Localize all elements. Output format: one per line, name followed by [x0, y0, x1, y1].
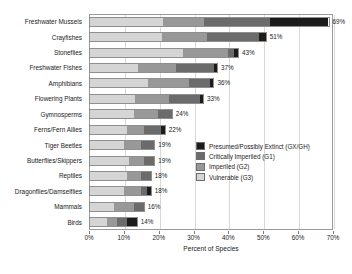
- bar-segment: [162, 33, 207, 41]
- x-tick-label: 0%: [84, 234, 93, 241]
- stacked-bar[interactable]: [89, 17, 330, 27]
- bar-segment: [210, 79, 213, 87]
- bar-segment: [200, 95, 203, 103]
- stacked-bar[interactable]: [89, 32, 267, 42]
- category-label: Birds: [0, 214, 85, 229]
- legend-swatch: [196, 173, 205, 181]
- x-tick-label: 30%: [187, 234, 200, 241]
- bar-row: 33%: [89, 91, 333, 106]
- legend-item[interactable]: Vulnerable (G3): [196, 173, 310, 181]
- bar-row: 69%: [89, 14, 333, 29]
- x-tick-label: 50%: [257, 234, 270, 241]
- bar-value-label: 19%: [158, 157, 171, 163]
- stacked-bar[interactable]: [89, 171, 152, 181]
- bar-segment: [141, 141, 155, 149]
- category-label: Flowering Plants: [0, 91, 85, 106]
- bar-segment: [90, 95, 135, 103]
- bar-segment: [90, 79, 148, 87]
- bar-segment: [90, 126, 127, 134]
- category-label: Tiger Beetles: [0, 137, 85, 152]
- bar-segment: [127, 218, 137, 226]
- bar-segment: [189, 79, 210, 87]
- stacked-bar[interactable]: [89, 78, 214, 88]
- bar-segment: [183, 49, 228, 57]
- bar-value-label: 16%: [148, 204, 161, 210]
- bar-segment: [90, 172, 127, 180]
- stacked-bar[interactable]: [89, 94, 204, 104]
- x-axis-ticks: 0%10%20%30%40%50%60%70%: [89, 231, 333, 243]
- bar-value-label: 43%: [242, 49, 255, 55]
- bar-segment: [127, 172, 140, 180]
- stacked-bar[interactable]: [89, 140, 155, 150]
- bar-value-label: 51%: [270, 34, 283, 40]
- bar-segment: [134, 110, 158, 118]
- stacked-bar[interactable]: [89, 217, 138, 227]
- bar-segment: [207, 33, 259, 41]
- bar-segment: [124, 187, 141, 195]
- bar-segment: [90, 64, 138, 72]
- bar-segment: [148, 79, 189, 87]
- bar-segment: [135, 95, 169, 103]
- bar-row: 51%: [89, 29, 333, 44]
- bar-value-label: 36%: [217, 80, 230, 86]
- category-label: Freshwater Fishes: [0, 60, 85, 75]
- bar-row: 24%: [89, 107, 333, 122]
- bar-segment: [90, 33, 162, 41]
- bar-segment: [158, 110, 172, 118]
- x-tick-label: 20%: [152, 234, 165, 241]
- category-label: Ferns/Fern Allies: [0, 122, 85, 137]
- gridline: [334, 15, 335, 229]
- bar-segment: [124, 141, 141, 149]
- stacked-bar[interactable]: [89, 48, 239, 58]
- category-label: Gymnosperms: [0, 107, 85, 122]
- bar-segment: [163, 18, 204, 26]
- legend-label: Imperiled (G2): [209, 163, 249, 170]
- bar-rows: 69%51%43%37%36%33%24%22%19%19%18%18%16%1…: [89, 14, 333, 230]
- legend-label: Critically Imperiled (G1): [209, 153, 275, 160]
- bar-segment: [176, 64, 214, 72]
- category-label: Freshwater Mussels: [0, 14, 85, 29]
- bar-segment: [90, 18, 163, 26]
- stacked-bar[interactable]: [89, 186, 152, 196]
- stacked-bar[interactable]: [89, 125, 166, 135]
- bar-segment: [90, 141, 124, 149]
- bar-segment: [144, 126, 161, 134]
- bar-segment: [90, 187, 124, 195]
- bar-value-label: 19%: [158, 142, 171, 148]
- x-tick-label: 10%: [118, 234, 131, 241]
- legend-item[interactable]: Critically Imperiled (G1): [196, 152, 310, 160]
- legend-label: Presumed/Possibly Extinct (GX/GH): [209, 143, 310, 150]
- bar-segment: [169, 95, 200, 103]
- stacked-bar[interactable]: [89, 63, 218, 73]
- x-axis-label: Percent of Species: [89, 245, 333, 252]
- legend-swatch: [196, 163, 205, 171]
- bar-segment: [141, 172, 151, 180]
- bar-row: 18%: [89, 184, 333, 199]
- stacked-bar[interactable]: [89, 109, 173, 119]
- bar-segment: [90, 218, 107, 226]
- stacked-bar[interactable]: [89, 202, 145, 212]
- bar-segment: [117, 218, 127, 226]
- bar-row: 36%: [89, 76, 333, 91]
- bar-value-label: 22%: [169, 127, 182, 133]
- bar-value-label: 18%: [155, 188, 168, 194]
- legend-item[interactable]: Imperiled (G2): [196, 163, 310, 171]
- bar-row: 14%: [89, 214, 333, 229]
- bar-segment: [107, 218, 117, 226]
- legend-item[interactable]: Presumed/Possibly Extinct (GX/GH): [196, 142, 310, 150]
- stacked-bar[interactable]: [89, 156, 155, 166]
- y-axis-category-labels: Freshwater MusselsCrayfishesStonefliesFr…: [0, 14, 85, 230]
- legend-swatch: [196, 152, 205, 160]
- bar-row: 37%: [89, 60, 333, 75]
- bar-segment: [259, 33, 266, 41]
- bar-segment: [161, 126, 164, 134]
- x-tick-label: 70%: [327, 234, 340, 241]
- bar-segment: [147, 187, 150, 195]
- bar-value-label: 24%: [176, 111, 189, 117]
- bar-segment: [204, 18, 270, 26]
- bar-value-label: 33%: [207, 96, 220, 102]
- x-tick-label: 60%: [292, 234, 305, 241]
- bar-segment: [234, 49, 237, 57]
- bar-row: 22%: [89, 122, 333, 137]
- bar-segment: [129, 157, 143, 165]
